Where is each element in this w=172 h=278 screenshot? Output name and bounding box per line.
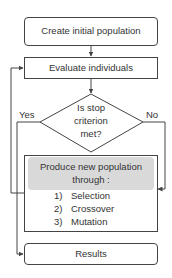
decision-line1: Is stop bbox=[61, 102, 121, 114]
step-label-3: Mutation bbox=[71, 216, 107, 228]
decision-line2: criterion bbox=[61, 115, 121, 127]
yes-label: Yes bbox=[19, 109, 35, 121]
produce-title-line1: Produce new population bbox=[24, 161, 158, 173]
evaluate-label: Evaluate individuals bbox=[24, 62, 158, 74]
step-label-1: Selection bbox=[71, 190, 110, 202]
decision-line3: met? bbox=[61, 128, 121, 140]
produce-title-line2: through : bbox=[24, 174, 158, 186]
step-label-2: Crossover bbox=[71, 203, 114, 215]
step-num-2: 2) bbox=[54, 203, 62, 215]
create-population-label: Create initial population bbox=[24, 25, 158, 37]
step-num-1: 1) bbox=[54, 190, 62, 202]
no-label: No bbox=[146, 109, 158, 121]
step-num-3: 3) bbox=[54, 216, 62, 228]
results-label: Results bbox=[24, 248, 158, 260]
